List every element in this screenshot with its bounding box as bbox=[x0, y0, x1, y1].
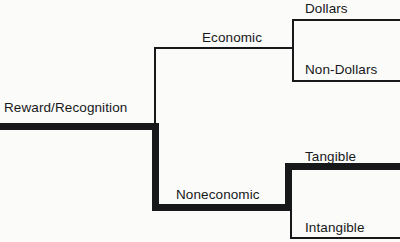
node-label-non-dollars: Non-Dollars bbox=[305, 63, 377, 77]
node-label-noneconomic: Noneconomic bbox=[176, 188, 260, 202]
node-label-intangible: Intangible bbox=[305, 221, 365, 235]
diagram-canvas: Reward/Recognition Economic Noneconomic … bbox=[0, 0, 400, 242]
node-label-economic: Economic bbox=[202, 31, 262, 45]
tree-edges bbox=[0, 0, 400, 242]
node-label-tangible: Tangible bbox=[305, 150, 356, 164]
node-label-reward-recognition: Reward/Recognition bbox=[4, 101, 127, 115]
node-label-dollars: Dollars bbox=[305, 2, 348, 16]
